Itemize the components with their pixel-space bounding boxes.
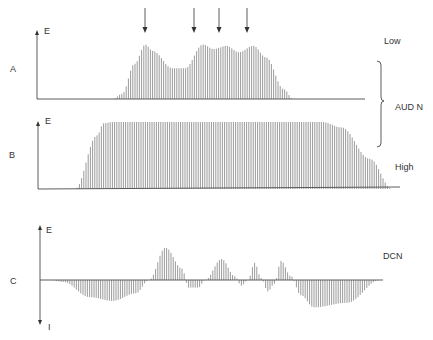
- peak-arrow-icon: [245, 27, 250, 33]
- peak-arrow-icon: [143, 27, 148, 33]
- panel-c-label: C: [10, 276, 17, 286]
- panel-c-up-arrowhead-icon: [38, 225, 42, 230]
- peak-arrows: [143, 8, 250, 33]
- panel-c-y-axis-label-bottom: I: [48, 322, 51, 332]
- panel-a-label: A: [10, 64, 16, 74]
- figure: A E Low B E High AUD N C E I DCN: [0, 0, 433, 340]
- panel-b: B E High: [9, 116, 414, 189]
- panel-c-down-arrowhead-icon: [38, 320, 42, 325]
- panel-b-y-arrowhead-icon: [36, 121, 40, 126]
- panel-a-y-axis-label: E: [44, 26, 50, 36]
- panel-a-y-arrowhead-icon: [35, 30, 39, 35]
- panel-b-label: B: [9, 150, 15, 160]
- brace-icon: [377, 61, 384, 147]
- panel-c-hatch: [50, 248, 380, 307]
- peak-arrow-icon: [192, 27, 197, 33]
- aud-n-brace: AUD N: [377, 61, 423, 147]
- panel-c: C E I DCN: [10, 225, 403, 332]
- panel-b-hatch: [75, 122, 392, 189]
- panel-a-hatch: [113, 45, 291, 99]
- peak-arrow-icon: [217, 27, 222, 33]
- panel-b-side-label: High: [395, 162, 414, 172]
- panel-a-side-label: Low: [384, 36, 401, 46]
- panel-c-y-axis-label-top: E: [46, 225, 52, 235]
- panel-a: A E Low: [10, 26, 401, 99]
- brace-label: AUD N: [395, 102, 423, 112]
- panel-c-side-label: DCN: [383, 251, 403, 261]
- panel-b-y-axis-label: E: [45, 116, 51, 126]
